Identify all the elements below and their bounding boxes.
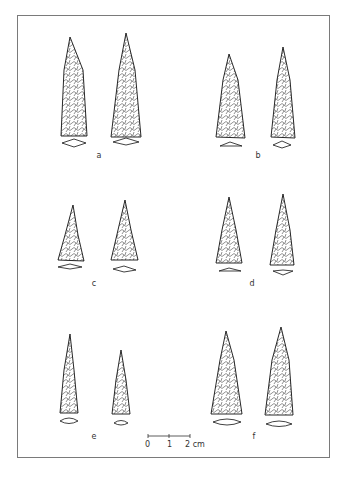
label-d: d <box>249 279 254 288</box>
point-c-2 <box>111 200 138 260</box>
point-c-1 <box>58 205 84 261</box>
point-f-2 <box>265 327 293 415</box>
label-a: a <box>97 151 102 160</box>
point-f-1 <box>211 331 242 414</box>
label-f: f <box>253 432 256 441</box>
label-c: c <box>92 279 96 288</box>
point-b-1 <box>216 54 245 138</box>
point-a-2 <box>111 33 141 137</box>
label-e: e <box>92 432 97 441</box>
point-d-2 <box>270 194 294 265</box>
scale-label-1: 1 <box>167 440 172 449</box>
label-b: b <box>255 151 260 160</box>
scale-label-0: 0 <box>145 440 150 449</box>
point-b-2 <box>271 47 295 138</box>
point-a-1 <box>61 37 87 136</box>
projectile-points-drawing <box>0 0 343 477</box>
scale-bar <box>148 434 190 438</box>
point-e-2 <box>112 350 130 414</box>
point-d-1 <box>216 197 242 263</box>
point-e-1 <box>60 334 78 413</box>
scale-label-2: 2 cm <box>185 440 205 449</box>
